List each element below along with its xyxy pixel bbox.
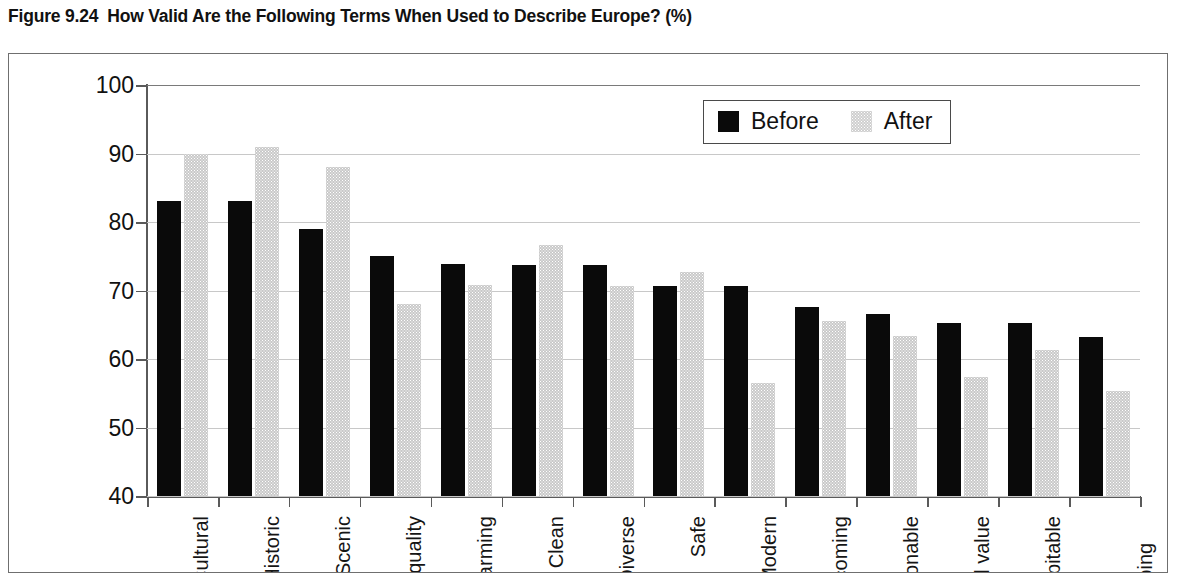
plot-area	[147, 85, 1140, 496]
bar-group	[856, 85, 927, 496]
bar-group	[431, 85, 502, 496]
bar-before	[1008, 323, 1032, 496]
bar-group	[289, 85, 360, 496]
x-tick-mark	[502, 497, 504, 507]
x-tick-mark	[644, 497, 646, 507]
bar-before	[228, 201, 252, 496]
x-tick-mark	[714, 497, 716, 507]
x-tick-mark	[360, 497, 362, 507]
bar-after	[397, 304, 421, 496]
bar-before	[583, 265, 607, 496]
bar-group	[218, 85, 289, 496]
figure-number: Figure 9.24	[8, 6, 98, 26]
chart-legend: Before After	[703, 100, 951, 144]
x-tick-mark	[1140, 497, 1142, 507]
y-tick-label-70: 70	[64, 277, 134, 304]
bar-before	[441, 264, 465, 496]
x-tick-mark	[998, 497, 1000, 507]
x-axis-label-historic: Historic	[262, 516, 283, 573]
chart-frame: 405060708090100 CulturalHistoricScenicHi…	[8, 53, 1168, 573]
bar-before	[512, 265, 536, 496]
bar-before	[937, 323, 961, 496]
x-tick-mark	[431, 497, 433, 507]
legend-label-before: Before	[751, 108, 819, 135]
x-tick-mark	[147, 497, 149, 507]
page-title: Figure 9.24How Valid Are the Following T…	[8, 6, 692, 27]
bar-after	[751, 383, 775, 496]
x-tick-mark	[1069, 497, 1071, 507]
y-tick-mark-70	[136, 291, 147, 293]
y-tick-mark-80	[136, 222, 147, 224]
bar-after	[1035, 350, 1059, 496]
x-tick-mark	[927, 497, 929, 507]
x-axis-label-fashionable: Fashionable	[901, 516, 922, 573]
x-tick-mark	[856, 497, 858, 507]
bar-after	[326, 167, 350, 496]
bar-before	[795, 307, 819, 496]
bar-after	[184, 154, 208, 497]
bar-group	[1069, 85, 1140, 496]
bar-group	[644, 85, 715, 496]
y-tick-mark-60	[136, 359, 147, 361]
bar-after	[964, 377, 988, 496]
x-axis-label-high-quality: High quality	[404, 516, 425, 573]
y-tick-label-90: 90	[64, 140, 134, 167]
x-axis-label-diverse: Diverse	[617, 516, 638, 573]
x-axis-label-good-value: Good value	[972, 516, 993, 573]
x-tick-mark	[785, 497, 787, 507]
y-tick-label-50: 50	[64, 414, 134, 441]
y-tick-mark-40	[136, 496, 147, 498]
y-tick-mark-50	[136, 428, 147, 430]
y-tick-label-60: 60	[64, 346, 134, 373]
bar-before	[157, 201, 181, 496]
x-axis-label-scenic: Scenic	[333, 516, 354, 573]
x-tick-mark	[218, 497, 220, 507]
bar-group	[927, 85, 998, 496]
bar-group	[360, 85, 431, 496]
bar-group	[573, 85, 644, 496]
x-axis-label-cultural: Cultural	[191, 516, 212, 573]
legend-label-after: After	[884, 108, 933, 135]
bar-after	[468, 285, 492, 496]
legend-swatch-before-icon	[718, 111, 739, 132]
x-axis-label-modern: Modern	[759, 516, 780, 573]
bar-group	[785, 85, 856, 496]
x-axis-label-safe: Safe	[688, 516, 709, 557]
y-tick-label-80: 80	[64, 209, 134, 236]
figure-title-text: How Valid Are the Following Terms When U…	[107, 6, 692, 26]
bar-before	[299, 229, 323, 496]
bar-after	[893, 336, 917, 496]
bar-after	[1106, 391, 1130, 496]
bar-before	[724, 286, 748, 496]
legend-item-before: Before	[718, 108, 819, 135]
y-tick-label-40: 40	[64, 483, 134, 510]
bar-after	[539, 245, 563, 496]
bar-group	[998, 85, 1069, 496]
bar-after	[255, 147, 279, 496]
bar-group	[714, 85, 785, 496]
bar-before	[1079, 337, 1103, 496]
x-tick-mark	[573, 497, 575, 507]
bar-before	[653, 286, 677, 496]
y-tick-mark-100	[136, 85, 147, 87]
legend-item-after: After	[851, 108, 933, 135]
bar-after	[610, 286, 634, 496]
x-axis-label-good-shopping: Good shopping	[1114, 516, 1155, 573]
bar-after	[822, 321, 846, 496]
x-tick-mark	[289, 497, 291, 507]
bar-before	[866, 314, 890, 496]
x-axis-label-hospitable: Hospitable	[1043, 516, 1064, 573]
legend-swatch-after-icon	[851, 111, 872, 132]
bar-group	[502, 85, 573, 496]
bar-group	[147, 85, 218, 496]
x-axis-label-clean: Clean	[546, 516, 567, 568]
y-tick-label-100: 100	[64, 72, 134, 99]
bar-after	[680, 272, 704, 496]
bar-before	[370, 256, 394, 496]
x-axis-label-charming: Charming	[475, 516, 496, 573]
y-tick-mark-90	[136, 154, 147, 156]
x-axis-label-welcoming: Welcoming	[830, 516, 851, 573]
